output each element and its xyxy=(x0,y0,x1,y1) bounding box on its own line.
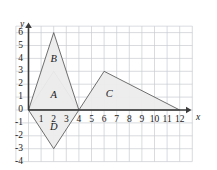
x-axis-arrow-icon xyxy=(186,107,192,114)
y-tick-label-4: 4 xyxy=(18,53,23,63)
x-axis-name: x xyxy=(195,112,201,122)
shape-label-b: B xyxy=(50,53,57,64)
y-axis-name: y xyxy=(19,19,25,29)
y-tick-label-5: 5 xyxy=(18,40,23,50)
x-tick-label-10: 10 xyxy=(150,114,160,124)
y-tick-label-1: 1 xyxy=(18,91,23,101)
x-tick-label-9: 9 xyxy=(140,114,145,124)
y-tick-label--1: -1 xyxy=(15,117,23,127)
y-tick-label-0: 0 xyxy=(18,104,23,114)
y-tick-label--4: -4 xyxy=(15,156,23,166)
x-tick-label-1: 1 xyxy=(39,114,44,124)
y-tick-label--2: -2 xyxy=(15,130,23,140)
shape-label-c: C xyxy=(106,88,114,99)
plot-canvas: 1234567891011126543210-1-2-3-4xy ABCD xyxy=(0,0,217,170)
coordinate-plane-figure: 1234567891011126543210-1-2-3-4xy ABCD xyxy=(0,0,217,170)
y-tick-label-2: 2 xyxy=(18,78,23,88)
y-tick-label--3: -3 xyxy=(15,143,23,153)
x-tick-label-5: 5 xyxy=(89,114,94,124)
x-tick-label-4: 4 xyxy=(77,114,82,124)
y-tick-label-3: 3 xyxy=(18,65,23,75)
x-tick-label-12: 12 xyxy=(175,114,185,124)
x-tick-label-7: 7 xyxy=(114,114,119,124)
x-tick-label-3: 3 xyxy=(64,114,69,124)
shape-label-d: D xyxy=(49,121,58,132)
x-tick-label-6: 6 xyxy=(102,114,107,124)
x-tick-label-8: 8 xyxy=(127,114,132,124)
y-axis-arrow-icon xyxy=(25,23,32,29)
shape-label-a: A xyxy=(49,89,57,100)
x-tick-label-11: 11 xyxy=(163,114,172,124)
